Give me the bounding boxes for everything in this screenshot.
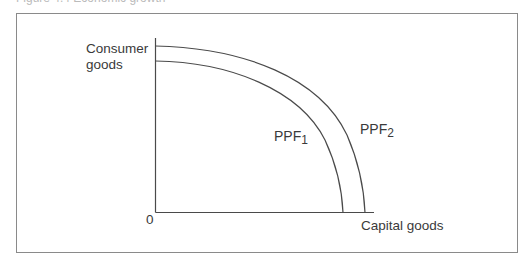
ppf2-curve [156,46,366,213]
ppf1-curve [156,61,344,213]
ppf-diagram [0,0,531,268]
ppf1-label: PPF1 [274,128,308,144]
y-axis-label: Consumer goods [86,41,148,73]
origin-label: 0 [146,212,154,228]
x-axis-label: Capital goods [361,218,444,234]
ppf2-label: PPF2 [360,121,394,137]
